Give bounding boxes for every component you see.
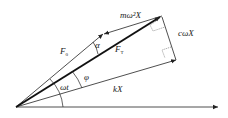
spring-force-label: kX (113, 84, 123, 94)
angle-phi-label: φ (84, 72, 89, 82)
exciting-force-label: F0 (59, 46, 69, 57)
damping-force-vector (162, 17, 176, 60)
angle-omega-t-label: ωt (60, 82, 69, 92)
total-force-label: FT (114, 44, 124, 55)
total-force-vector (16, 17, 160, 107)
right-angle-marker-bottom (162, 47, 171, 58)
diagram-svg: mω²X cωX FT F0 kX α φ ωt (0, 0, 228, 118)
damping-force-label: cωX (178, 28, 194, 38)
exciting-force-vector (16, 34, 103, 107)
angle-alpha-label: α (95, 40, 100, 50)
vector-diagram: mω²X cωX FT F0 kX α φ ωt (0, 0, 228, 118)
mass-force-label: mω²X (120, 10, 142, 20)
angle-phi-arc (72, 71, 82, 88)
spring-force-vector (16, 60, 176, 107)
